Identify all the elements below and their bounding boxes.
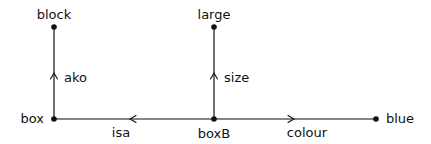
node-block-dot — [51, 24, 57, 30]
edge-label-ako: ako — [64, 70, 87, 85]
node-label-blue: blue — [386, 111, 414, 126]
node-box-dot — [51, 116, 57, 122]
edge-label-size: size — [224, 70, 249, 85]
node-large-dot — [211, 24, 217, 30]
node-blue-dot — [373, 116, 379, 122]
node-label-box: box — [21, 111, 45, 126]
edge-label-colour: colour — [287, 125, 328, 140]
node-label-boxB: boxB — [198, 126, 230, 141]
node-label-block: block — [37, 7, 72, 22]
semantic-network-diagram: block large box boxB blue ako size isa c… — [0, 0, 431, 144]
node-label-large: large — [198, 7, 231, 22]
node-boxB-dot — [211, 116, 217, 122]
edge-label-isa: isa — [112, 125, 130, 140]
